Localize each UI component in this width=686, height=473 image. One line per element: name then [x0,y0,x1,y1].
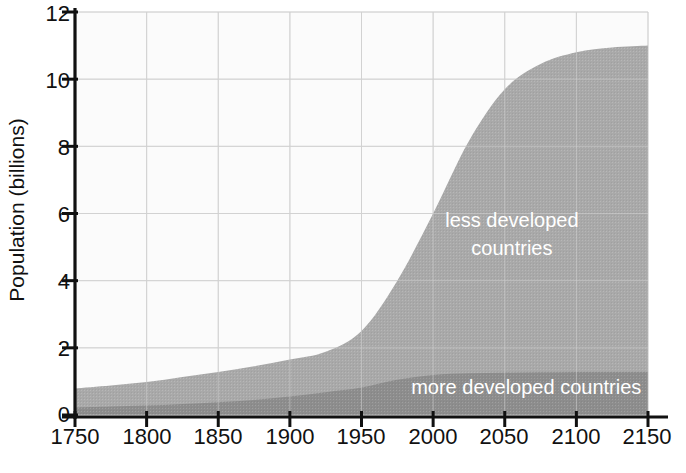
x-tick-2000: 2000 [409,424,458,450]
x-tick-1800: 1800 [123,424,172,450]
annotation-less-developed-line2: countries [471,237,552,259]
x-axis-tick-labels: 1750 1800 1850 1900 1950 2000 2050 2100 … [0,424,686,470]
plot-area: less developed countries more developed … [0,0,686,473]
annotation-more-developed: more developed countries [411,376,641,398]
x-tick-2150: 2150 [623,424,672,450]
x-tick-2050: 2050 [480,424,529,450]
x-tick-1950: 1950 [337,424,386,450]
x-tick-1900: 1900 [266,424,315,450]
annotation-less-developed-line1: less developed [445,209,578,231]
x-tick-2100: 2100 [552,424,601,450]
population-area-chart: Population (billions) 12 10 8 6 4 2 0 [0,0,686,473]
x-tick-1850: 1850 [194,424,243,450]
x-tick-1750: 1750 [51,424,100,450]
